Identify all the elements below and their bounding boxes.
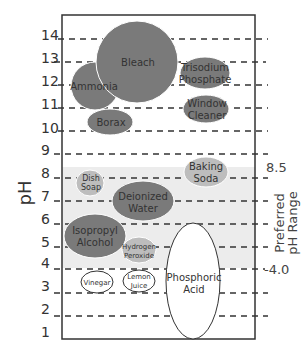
y-axis-title: pH [14,181,35,206]
label-hydrogen: Hydrogen [122,243,156,251]
label-phosphate: Phosphate [179,74,232,85]
tick-6: 6 [41,211,50,227]
range-high-label: 8.5 [266,160,287,175]
label-alcohol: Alcohol [77,237,113,248]
label-bleach: Bleach [121,57,155,68]
label-acid: Acid [183,284,204,295]
tick-2: 2 [41,301,50,317]
label-vinegar: Vinegar [84,279,111,287]
label-borax: Borax [96,117,125,128]
label-juice: Juice [130,282,148,290]
label-trisodium: Trisodium [180,62,229,73]
label-soap: Soap [81,183,101,192]
label-cleaner: Cleaner [188,110,228,121]
tick-13: 13 [41,50,59,66]
range-low-label: -4.0 [264,262,289,277]
tick-5: 5 [41,234,50,250]
tick-1: 1 [41,324,50,340]
tick-9: 9 [41,142,50,158]
label-soda: Soda [194,173,219,184]
label-peroxide: Peroxide [124,252,154,260]
label-lemon: Lemon [127,273,151,281]
tick-8: 8 [41,165,50,181]
tick-4: 4 [41,255,50,271]
label-deionized: Deionized [118,191,168,202]
label-isopropyl: Isopropyl [72,225,118,236]
label-ammonia: Ammonia [70,81,118,92]
bubble-isopropyl-alcohol [64,214,126,258]
tick-7: 7 [41,188,50,204]
ph-chart: Bleach Ammonia Trisodium Phosphate Windo… [0,0,306,356]
label-phosphoric: Phosphoric [167,272,222,283]
label-baking: Baking [189,161,223,172]
label-window: Window [187,98,226,109]
tick-12: 12 [41,73,59,89]
tick-3: 3 [41,278,50,294]
label-dish: Dish [82,174,100,183]
tick-14: 14 [41,27,59,43]
label-water: Water [128,203,158,214]
tick-11: 11 [41,96,59,112]
range-title-line2: pH Range [285,191,300,254]
tick-10: 10 [41,120,59,136]
